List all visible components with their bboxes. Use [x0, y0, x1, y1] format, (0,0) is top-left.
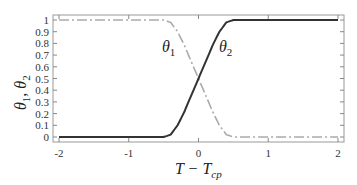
y-tick-label: 0.9 [35, 26, 49, 38]
y-tick-label: 0.6 [35, 61, 49, 73]
x-tick-label: 1 [266, 147, 272, 159]
y-tick-label: 0.2 [35, 108, 49, 120]
x-tick-labels: -2-1012 [54, 147, 340, 159]
x-tick-label: -1 [124, 147, 133, 159]
y-tick-label: 0.7 [35, 49, 49, 61]
line-chart: -2-1012 00.10.20.30.40.50.60.70.80.91 θ1… [0, 0, 357, 185]
y-tick-label: 0 [44, 131, 50, 143]
y-tick-label: 0.1 [35, 119, 49, 131]
y-tick-labels: 00.10.20.30.40.50.60.70.80.91 [35, 14, 49, 143]
y-tick-label: 0.3 [35, 96, 49, 108]
y-tick-label: 0.8 [35, 37, 49, 49]
x-tick-label: 0 [196, 147, 202, 159]
y-tick-label: 1 [44, 14, 50, 26]
y-tick-label: 0.4 [35, 84, 49, 96]
y-axis-label: θ1, θ2 [12, 75, 32, 110]
x-tick-label: 2 [335, 147, 341, 159]
x-tick-label: -2 [54, 147, 63, 159]
x-axis-label: T − Tcp [175, 160, 222, 180]
y-tick-label: 0.5 [35, 73, 49, 85]
